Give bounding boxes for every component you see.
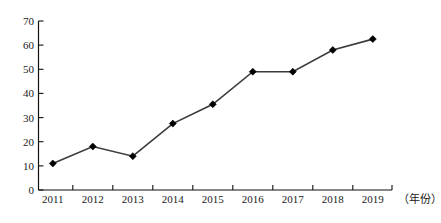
x-tick-label-2018: 2018 xyxy=(322,193,345,205)
data-point-2017 xyxy=(289,68,296,75)
x-tick-label-2014: 2014 xyxy=(162,193,185,205)
x-tick-label-2012: 2012 xyxy=(82,193,104,205)
x-tick-label-2015: 2015 xyxy=(202,193,225,205)
data-point-2018 xyxy=(329,46,336,53)
x-tick-label-2016: 2016 xyxy=(242,193,265,205)
x-axis-caption: （年份） xyxy=(398,192,441,205)
line-chart: 0 10 20 30 40 50 60 70 2011 2012 2013 20… xyxy=(0,0,441,223)
x-tick-label-2011: 2011 xyxy=(42,193,64,205)
y-tick-label-40: 40 xyxy=(23,87,35,99)
data-point-2012 xyxy=(89,143,96,150)
y-tick-label-20: 20 xyxy=(23,136,35,148)
data-point-2011 xyxy=(49,160,56,167)
x-tick-marks xyxy=(73,185,392,190)
data-point-2019 xyxy=(369,36,376,43)
y-tick-marks xyxy=(39,21,44,190)
x-tick-label-2017: 2017 xyxy=(282,193,305,205)
y-tick-label-30: 30 xyxy=(23,112,35,124)
chart-container: 0 10 20 30 40 50 60 70 2011 2012 2013 20… xyxy=(0,0,441,223)
y-tick-label-10: 10 xyxy=(23,160,35,172)
x-tick-label-2013: 2013 xyxy=(122,193,145,205)
y-tick-label-0: 0 xyxy=(29,184,35,196)
x-tick-label-2019: 2019 xyxy=(362,193,385,205)
y-tick-label-60: 60 xyxy=(23,39,35,51)
y-tick-label-50: 50 xyxy=(23,63,35,75)
y-tick-label-70: 70 xyxy=(23,15,35,27)
